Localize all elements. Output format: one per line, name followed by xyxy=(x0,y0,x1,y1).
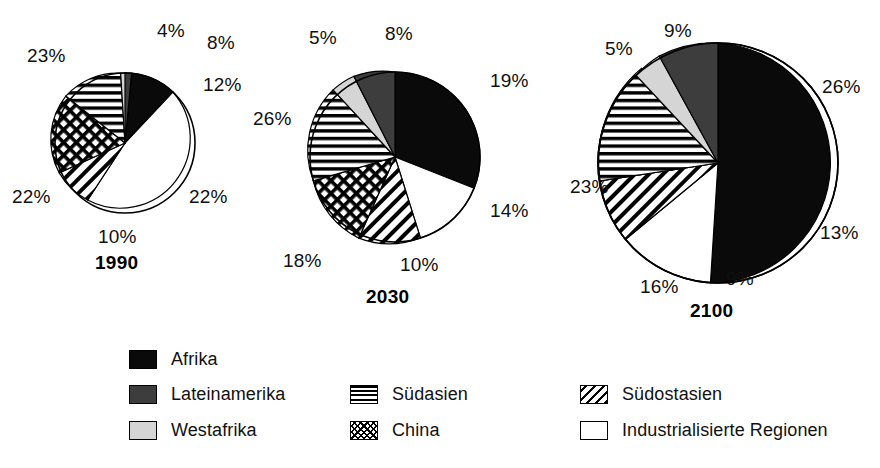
pie-1990-label-suedasien: 23% xyxy=(27,45,66,67)
pie-1990-label-china: 22% xyxy=(12,186,51,208)
pie-2030-label-westafrika: 5% xyxy=(309,27,337,49)
pie-2030-label-afrika: 19% xyxy=(490,70,529,92)
pie-2100-label-suedasien: 23% xyxy=(570,176,609,198)
pie-2100-label-afrika: 26% xyxy=(822,76,861,98)
pie-1990-year: 1990 xyxy=(95,252,138,274)
legend-label-afrika: Afrika xyxy=(171,349,218,370)
legend-label-westafrika: Westafrika xyxy=(171,420,257,441)
pie-2030-label-china: 18% xyxy=(283,250,322,272)
pie-1990-label-westafrika: 4% xyxy=(157,20,185,42)
pie-2100-label-suedostasien: 9% xyxy=(726,268,754,290)
legend-label-china: China xyxy=(392,420,440,441)
pie-2100-year: 2100 xyxy=(690,300,733,322)
legend-item-suedasien[interactable]: Südasien xyxy=(350,384,468,405)
legend-swatch-suedostasien-icon xyxy=(580,385,608,404)
pie-2030-label-suedostasien: 10% xyxy=(400,254,439,276)
pie-1990-label-lateinamerika: 8% xyxy=(207,32,235,54)
legend-swatch-lateinamerika-icon xyxy=(129,385,157,404)
pie-1990-label-suedostasien: 10% xyxy=(98,226,137,248)
pie-1990-label-afrika: 12% xyxy=(203,74,242,96)
pie-2030-label-lateinamerika: 8% xyxy=(385,23,413,45)
legend-item-suedostasien[interactable]: Südostasien xyxy=(580,384,722,405)
legend-item-lateinamerika[interactable]: Lateinamerika xyxy=(129,384,285,405)
pie-2030-label-industrialisierte: 14% xyxy=(490,200,529,222)
pie-2100-label-westafrika: 5% xyxy=(605,38,633,60)
legend-label-industrialisierte-regionen: Industrialisierte Regionen xyxy=(622,420,828,441)
legend-swatch-china-icon xyxy=(350,421,378,440)
legend-item-westafrika[interactable]: Westafrika xyxy=(129,420,257,441)
legend-swatch-afrika-icon xyxy=(129,350,157,369)
legend-item-china[interactable]: China xyxy=(350,420,440,441)
pie-1990-label-industrialisierte: 22% xyxy=(189,186,228,208)
legend-label-suedasien: Südasien xyxy=(392,384,468,405)
legend-swatch-industrialisierte-regionen-icon xyxy=(580,421,608,440)
legend-label-suedostasien: Südostasien xyxy=(622,384,722,405)
pie-2030-year: 2030 xyxy=(366,286,409,308)
pie-2030-label-suedasien: 26% xyxy=(253,108,292,130)
pie-2100-label-china: 16% xyxy=(640,276,679,298)
legend-item-industrialisierte-regionen[interactable]: Industrialisierte Regionen xyxy=(580,420,828,441)
legend-label-lateinamerika: Lateinamerika xyxy=(171,384,285,405)
legend-swatch-suedasien-icon xyxy=(350,385,378,404)
legend-item-afrika[interactable]: Afrika xyxy=(129,349,218,370)
pie-2100-label-lateinamerika: 9% xyxy=(664,20,692,42)
pie-2100-label-industrialisierte: 13% xyxy=(820,222,859,244)
legend-swatch-westafrika-icon xyxy=(129,421,157,440)
